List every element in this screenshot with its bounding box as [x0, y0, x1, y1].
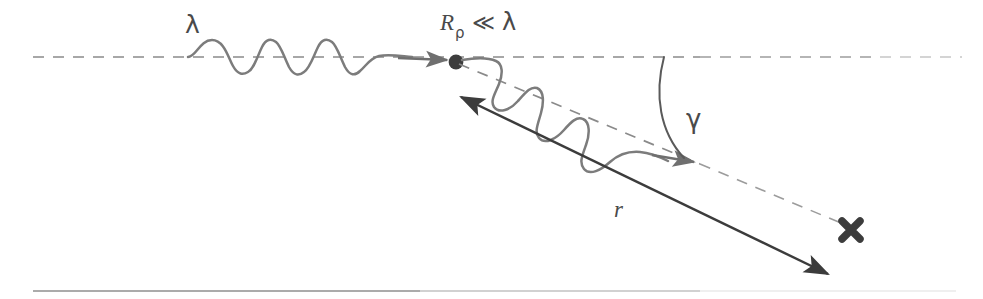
observer-cross-icon	[842, 221, 860, 239]
scattered-propagation-axis	[459, 64, 848, 226]
diagram-canvas: λ R ρ ≪ λ γ r	[0, 0, 983, 299]
comparison-wavelength-label: λ	[502, 8, 516, 36]
observer-point	[842, 221, 860, 239]
scattering-angle-arc	[659, 57, 684, 158]
particle-radius-symbol: R	[439, 10, 454, 35]
particle-radius-subscript: ρ	[455, 24, 465, 42]
incident-wave-direction-arrow	[398, 58, 447, 60]
scattered-wave-path	[462, 58, 668, 172]
much-less-than-symbol: ≪	[472, 10, 495, 35]
scattering-angle-label: γ	[686, 104, 701, 134]
wavelength-label: λ	[185, 10, 200, 39]
distance-label: r	[614, 197, 624, 222]
scattering-particle	[449, 55, 464, 70]
particle-size-condition-label: R ρ ≪ λ	[439, 8, 516, 42]
scattering-diagram: λ R ρ ≪ λ γ r	[0, 0, 983, 299]
scattered-axis-dashed-far	[700, 164, 848, 226]
distance-double-arrow	[461, 97, 828, 274]
